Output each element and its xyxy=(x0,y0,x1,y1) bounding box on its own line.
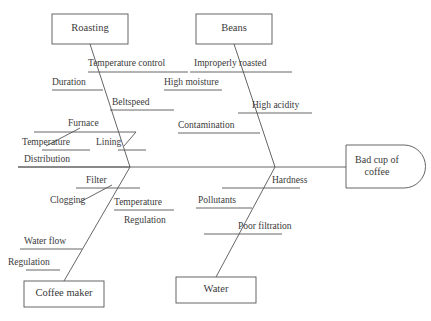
cause-label-high-acidity: High acidity xyxy=(252,101,299,111)
cause-label-filter: Filter xyxy=(86,176,107,186)
effect-label-line2: coffee xyxy=(346,166,408,178)
cause-label-improperly-roasted: Improperly roasted xyxy=(194,59,267,69)
cause-label-water-flow: Water flow xyxy=(24,237,66,247)
cause-label-lining: Lining xyxy=(96,138,121,148)
cause-label-regulation-flow: Regulation xyxy=(8,258,50,268)
cause-label-contamination: Contamination xyxy=(178,121,234,131)
subbone-lining-connector xyxy=(124,132,136,146)
category-label-coffee-maker: Coffee maker xyxy=(24,288,104,299)
cause-label-high-moisture: High moisture xyxy=(164,78,219,88)
fishbone-diagram: Roasting Beans Coffee maker Water Bad cu… xyxy=(0,0,431,321)
category-label-water: Water xyxy=(176,284,256,295)
effect-label: Bad cup of coffee xyxy=(346,154,408,178)
cause-label-clogging: Clogging xyxy=(50,196,85,206)
category-label-beans: Beans xyxy=(196,23,272,34)
cause-label-temperature-maker: Temperature xyxy=(114,198,162,208)
cause-label-hardness: Hardness xyxy=(272,176,307,186)
cause-label-regulation-maker: Regulation xyxy=(124,216,166,226)
cause-label-beltspeed: Beltspeed xyxy=(112,98,149,108)
cause-label-distribution: Distribution xyxy=(24,155,70,165)
cause-label-duration: Duration xyxy=(52,78,86,88)
cause-label-poor-filtration: Poor filtration xyxy=(238,222,292,232)
cause-label-furnace: Furnace xyxy=(68,119,99,129)
cause-label-pollutants: Pollutants xyxy=(198,196,236,206)
cause-label-temperature-control: Temperature control xyxy=(88,59,165,69)
category-label-roasting: Roasting xyxy=(52,23,128,34)
cause-label-temperature-furnace: Temperature xyxy=(22,138,70,148)
effect-label-line1: Bad cup of xyxy=(346,154,408,166)
